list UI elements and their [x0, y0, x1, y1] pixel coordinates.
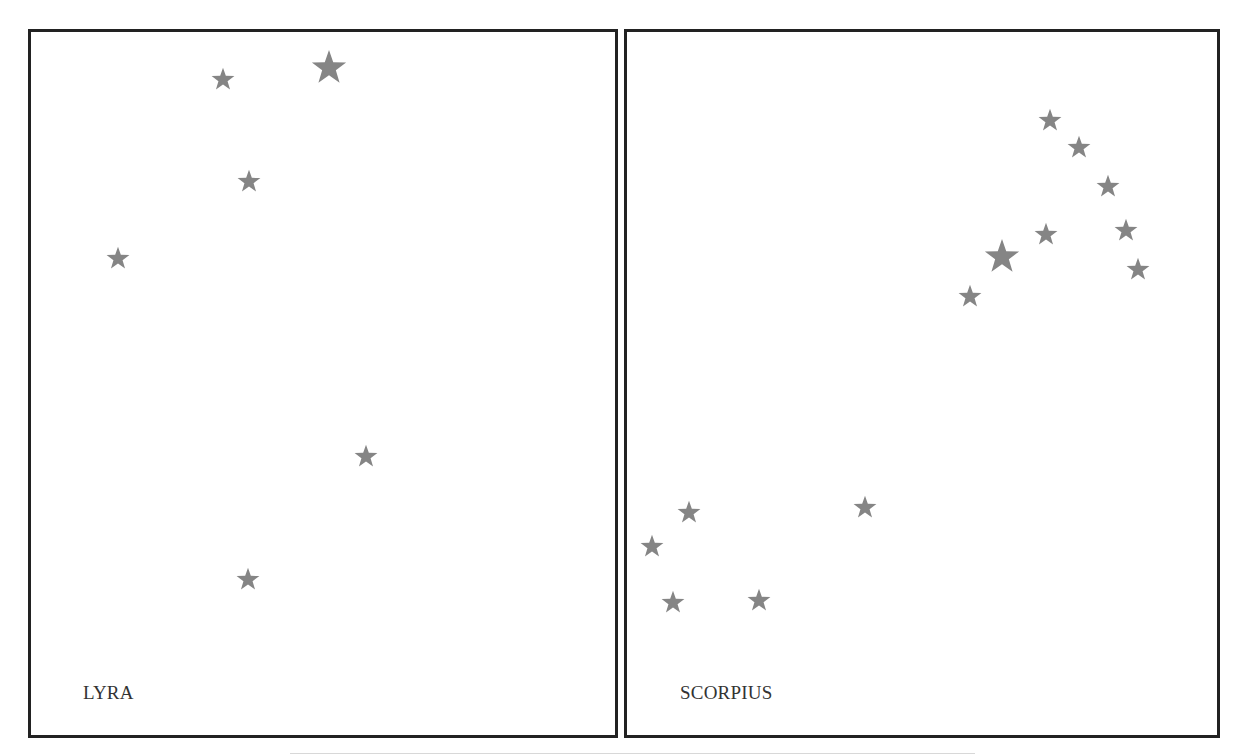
star-icon: [1038, 108, 1062, 132]
star-icon: [1126, 257, 1150, 281]
star-icon: [747, 588, 771, 612]
star-icon: [1114, 218, 1138, 242]
star-icon: [1096, 174, 1120, 198]
bottom-divider: [290, 753, 975, 754]
star-icon: [236, 567, 260, 591]
star-icon: [958, 284, 982, 308]
star-icon: [677, 500, 701, 524]
star-icon: [853, 495, 877, 519]
star-icon: [311, 49, 347, 85]
star-icon: [211, 67, 235, 91]
star-icon: [984, 238, 1020, 274]
lyra-label: LYRA: [83, 683, 134, 702]
lyra-panel: [28, 29, 618, 738]
star-icon: [237, 169, 261, 193]
scorpius-label: SCORPIUS: [680, 683, 772, 702]
star-icon: [1034, 222, 1058, 246]
star-icon: [640, 534, 664, 558]
star-icon: [354, 444, 378, 468]
star-icon: [1067, 135, 1091, 159]
star-icon: [661, 590, 685, 614]
scorpius-panel: [624, 29, 1220, 738]
star-icon: [106, 246, 130, 270]
